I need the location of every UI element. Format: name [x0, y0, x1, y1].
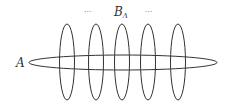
- label-b-main: B: [113, 5, 123, 19]
- ellipse-diagram: A BΛ ··· ···: [0, 0, 233, 108]
- horizontal-ellipse-a: [29, 55, 217, 70]
- vertical-ellipse-2: [89, 24, 104, 100]
- vertical-ellipse-4: [141, 24, 156, 100]
- vertical-ellipse-1: [60, 24, 75, 100]
- vertical-ellipse-5: [171, 24, 186, 100]
- label-a: A: [15, 56, 25, 70]
- label-b: BΛ: [113, 5, 128, 20]
- label-b-subscript: Λ: [122, 12, 128, 20]
- dots-left: ···: [84, 7, 92, 16]
- dots-right: ···: [145, 7, 153, 16]
- vertical-ellipse-3: [115, 24, 130, 100]
